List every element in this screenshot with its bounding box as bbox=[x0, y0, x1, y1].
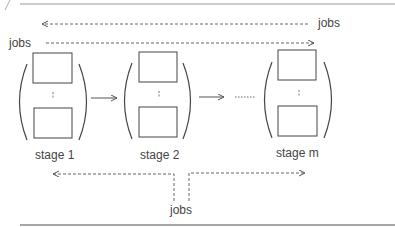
stage-2-group bbox=[125, 52, 191, 139]
stage-m-label: stage m bbox=[276, 146, 319, 160]
stage-m-group bbox=[265, 50, 332, 138]
top-input-label: jobs bbox=[9, 36, 31, 50]
stage-1-label: stage 1 bbox=[35, 148, 74, 162]
bottom-return-arrows bbox=[53, 173, 305, 201]
top-return-label: jobs bbox=[318, 16, 340, 30]
pipeline-diagram bbox=[0, 0, 395, 227]
stage-2-label: stage 2 bbox=[140, 148, 179, 162]
stage-1-group bbox=[20, 53, 87, 140]
bottom-jobs-label: jobs bbox=[170, 203, 192, 217]
top-frame-line bbox=[5, 0, 395, 10]
